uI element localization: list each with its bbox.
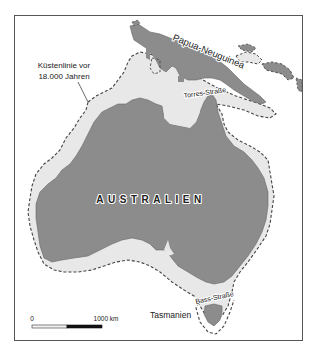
label-coastline-line2: 18.000 Jahren bbox=[38, 72, 89, 81]
aru-islands bbox=[178, 76, 184, 82]
label-coastline-line1: Küstenlinie vor bbox=[38, 61, 91, 70]
scale-bar-dark-segment bbox=[67, 325, 102, 328]
seram-island bbox=[146, 48, 150, 60]
scale-label-start: 0 bbox=[30, 315, 34, 322]
label-tasmanien: Tasmanien bbox=[150, 310, 191, 320]
scale-bar-light-segment bbox=[32, 325, 67, 328]
scale-label-end: 1000 km bbox=[94, 315, 119, 322]
label-australien: AUSTRALIEN bbox=[96, 194, 205, 205]
map-canvas: Papua-Neuguinea Torres-Straße Küstenlini… bbox=[0, 0, 315, 353]
